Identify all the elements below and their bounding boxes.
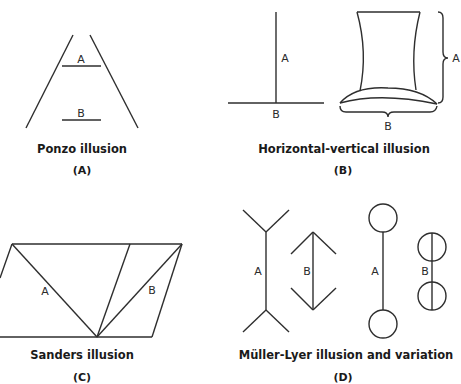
muller-lyer-label-a: A [254, 266, 262, 277]
hv-t-label-a: A [281, 53, 289, 64]
muller-lyer-tag: (D) [333, 372, 352, 383]
sanders-title: Sanders illusion [30, 350, 134, 362]
hv-title: Horizontal-vertical illusion [258, 144, 430, 156]
top-hat-figure [340, 12, 448, 117]
sanders-label-b: B [148, 285, 156, 296]
circle-variation-label-a: A [371, 266, 379, 277]
ponzo-tag: (A) [73, 165, 92, 176]
hv-hat-label-a: A [452, 53, 460, 64]
horizontal-vertical-t-figure [228, 12, 324, 103]
sanders-label-a: A [41, 286, 49, 297]
muller-lyer-circle-variation [369, 204, 446, 338]
hv-hat-label-b: B [384, 121, 392, 132]
circle-variation-label-b: B [421, 266, 429, 277]
ponzo-label-a: A [77, 54, 85, 65]
muller-lyer-title: Müller-Lyer illusion and variation [239, 350, 454, 362]
ponzo-title: Ponzo illusion [37, 144, 127, 156]
ponzo-label-b: B [77, 108, 85, 119]
hv-t-label-b: B [272, 109, 280, 120]
sanders-tag: (C) [73, 372, 91, 383]
muller-lyer-label-b: B [303, 266, 311, 277]
hv-tag: (B) [334, 165, 352, 176]
